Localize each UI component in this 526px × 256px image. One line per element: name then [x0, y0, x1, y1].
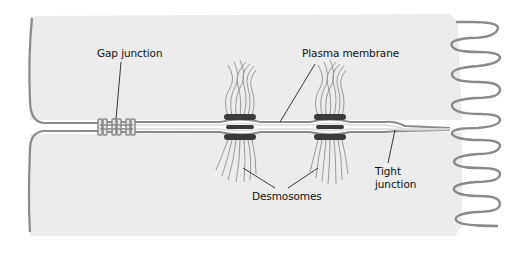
- gap-junction-structure: [98, 119, 135, 135]
- plasma-membrane: [100, 120, 450, 135]
- desmosomes-label: Desmosomes: [252, 190, 322, 202]
- tight-junction-label-line1: Tight: [375, 165, 401, 177]
- diagram-artwork: [0, 0, 526, 256]
- tight-junction-label-line2: junction: [375, 178, 416, 190]
- gap-junction-label: Gap junction: [97, 47, 163, 59]
- plasma-membrane-label: Plasma membrane: [302, 47, 399, 59]
- cell-junction-diagram: Gap junction Plasma membrane Desmosomes …: [0, 0, 526, 256]
